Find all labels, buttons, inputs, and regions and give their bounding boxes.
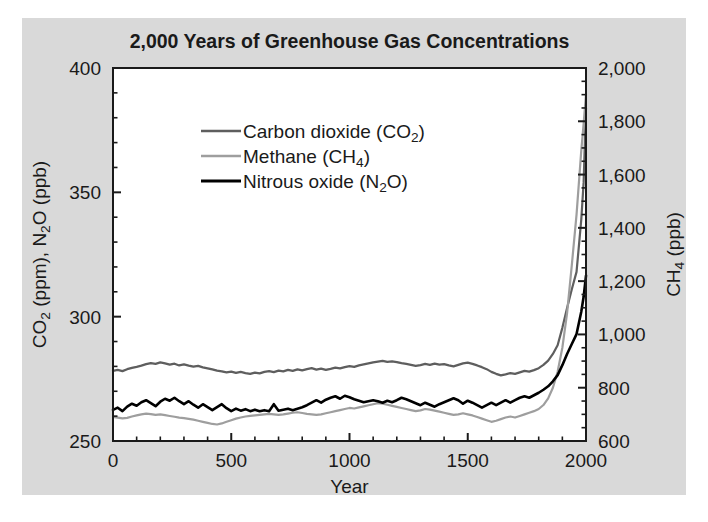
greenhouse-gas-line-chart: 05001000150020002503003504006008001,0001… [0, 0, 708, 522]
x-tick-label: 1000 [328, 450, 370, 471]
y-right-tick-label: 1,800 [598, 111, 646, 132]
x-axis-label: Year [330, 476, 369, 497]
x-tick-label: 500 [215, 450, 247, 471]
y-left-tick-label: 350 [69, 182, 101, 203]
y-right-tick-label: 1,600 [598, 165, 646, 186]
y-right-tick-label: 800 [598, 378, 630, 399]
y-left-tick-label: 250 [69, 431, 101, 452]
y-right-tick-label: 1,400 [598, 218, 646, 239]
legend-label-1: Carbon dioxide (CO2) [243, 121, 425, 145]
y-right-axis-label: CH4 (ppb) [663, 212, 687, 297]
x-tick-label: 0 [108, 450, 119, 471]
x-tick-label: 2000 [565, 450, 607, 471]
legend-label-2: Methane (CH4) [243, 146, 370, 170]
y-left-tick-label: 300 [69, 307, 101, 328]
x-tick-label: 1500 [447, 450, 489, 471]
y-right-tick-label: 1,000 [598, 324, 646, 345]
chart-title: 2,000 Years of Greenhouse Gas Concentrat… [130, 30, 570, 52]
figure-container: 05001000150020002503003504006008001,0001… [0, 0, 708, 522]
y-right-tick-label: 1,200 [598, 271, 646, 292]
y-right-tick-label: 2,000 [598, 58, 646, 79]
y-right-tick-label: 600 [598, 431, 630, 452]
y-left-tick-label: 400 [69, 58, 101, 79]
y-left-axis-label: CO2 (ppm), N2O (ppb) [29, 161, 53, 348]
